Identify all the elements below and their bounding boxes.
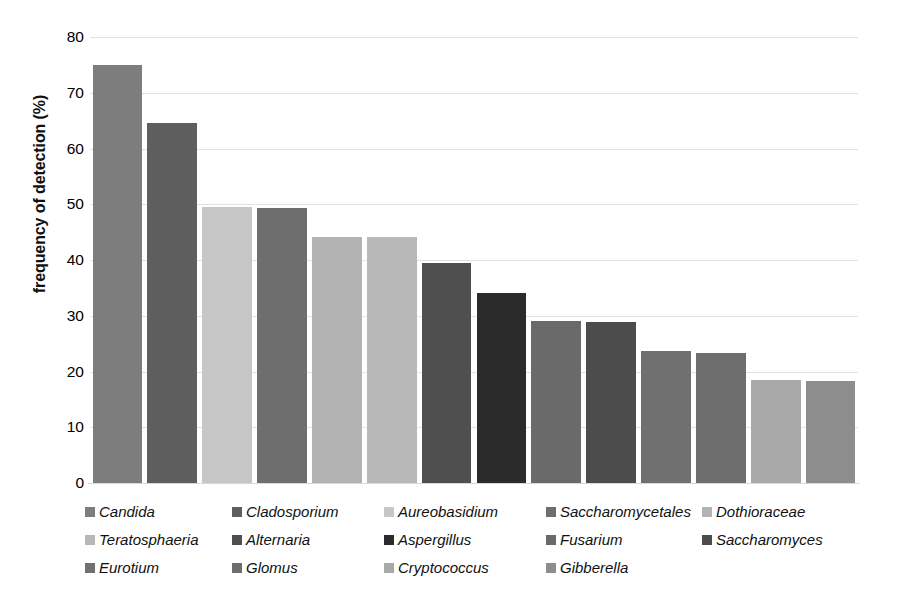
legend-item[interactable]: Dothioraceae <box>702 503 805 520</box>
bar <box>202 207 252 483</box>
legend-item[interactable]: Eurotium <box>85 559 159 576</box>
legend-label: Glomus <box>246 559 298 576</box>
bars-layer <box>90 37 858 483</box>
legend-swatch-icon <box>232 563 242 573</box>
y-tick-label: 60 <box>40 141 84 157</box>
legend-label: Gibberella <box>560 559 628 576</box>
legend-item[interactable]: Aureobasidium <box>384 503 498 520</box>
legend-item[interactable]: Teratosphaeria <box>85 531 199 548</box>
legend-item[interactable]: Aspergillus <box>384 531 471 548</box>
legend-label: Aureobasidium <box>398 503 498 520</box>
bar <box>586 322 636 483</box>
legend-label: Alternaria <box>246 531 310 548</box>
bar <box>641 351 691 483</box>
y-tick-label: 30 <box>40 308 84 324</box>
y-tick-label: 80 <box>40 29 84 45</box>
y-tick-label: 10 <box>40 419 84 435</box>
bar <box>751 380 801 483</box>
legend-swatch-icon <box>85 535 95 545</box>
legend-row: EurotiumGlomusCryptococcusGibberella <box>0 559 913 586</box>
y-tick-label: 0 <box>40 475 84 491</box>
legend-swatch-icon <box>384 563 394 573</box>
bar <box>531 321 581 483</box>
legend-row: TeratosphaeriaAlternariaAspergillusFusar… <box>0 531 913 558</box>
legend-swatch-icon <box>384 535 394 545</box>
bar <box>422 263 472 483</box>
bar <box>257 208 307 483</box>
legend-row: CandidaCladosporiumAureobasidiumSaccharo… <box>0 503 913 530</box>
legend-label: Fusarium <box>560 531 623 548</box>
bar <box>367 237 417 483</box>
y-tick-label: 20 <box>40 364 84 380</box>
legend-label: Saccharomycetales <box>560 503 691 520</box>
legend-item[interactable]: Fusarium <box>546 531 623 548</box>
legend-item[interactable]: Glomus <box>232 559 298 576</box>
legend-label: Eurotium <box>99 559 159 576</box>
legend-swatch-icon <box>702 507 712 517</box>
legend-item[interactable]: Cryptococcus <box>384 559 489 576</box>
legend-item[interactable]: Saccharomycetales <box>546 503 691 520</box>
y-tick-label: 70 <box>40 85 84 101</box>
bar <box>477 293 527 483</box>
bar <box>93 65 143 483</box>
legend-item[interactable]: Candida <box>85 503 155 520</box>
legend-swatch-icon <box>85 507 95 517</box>
legend-swatch-icon <box>85 563 95 573</box>
y-axis-ticks: 80706050403020100 <box>28 37 84 483</box>
legend-swatch-icon <box>384 507 394 517</box>
legend-swatch-icon <box>702 535 712 545</box>
legend-item[interactable]: Saccharomyces <box>702 531 823 548</box>
legend-item[interactable]: Alternaria <box>232 531 310 548</box>
bar-chart-figure: frequency of detection (%) 8070605040302… <box>0 0 913 616</box>
legend-label: Aspergillus <box>398 531 471 548</box>
legend-swatch-icon <box>232 507 242 517</box>
bar <box>312 237 362 483</box>
bar <box>806 381 856 483</box>
legend-label: Cladosporium <box>246 503 339 520</box>
bar <box>147 123 197 483</box>
y-tick-label: 50 <box>40 196 84 212</box>
legend-label: Cryptococcus <box>398 559 489 576</box>
x-axis-line <box>88 483 860 484</box>
legend-swatch-icon <box>546 535 556 545</box>
y-tick-label: 40 <box>40 252 84 268</box>
bar <box>696 353 746 483</box>
legend-swatch-icon <box>546 563 556 573</box>
legend-label: Saccharomyces <box>716 531 823 548</box>
legend-item[interactable]: Gibberella <box>546 559 628 576</box>
legend-item[interactable]: Cladosporium <box>232 503 339 520</box>
legend-label: Teratosphaeria <box>99 531 199 548</box>
chart-legend: CandidaCladosporiumAureobasidiumSaccharo… <box>0 503 913 593</box>
legend-swatch-icon <box>232 535 242 545</box>
legend-label: Dothioraceae <box>716 503 805 520</box>
legend-label: Candida <box>99 503 155 520</box>
plot-area <box>90 37 858 483</box>
legend-swatch-icon <box>546 507 556 517</box>
